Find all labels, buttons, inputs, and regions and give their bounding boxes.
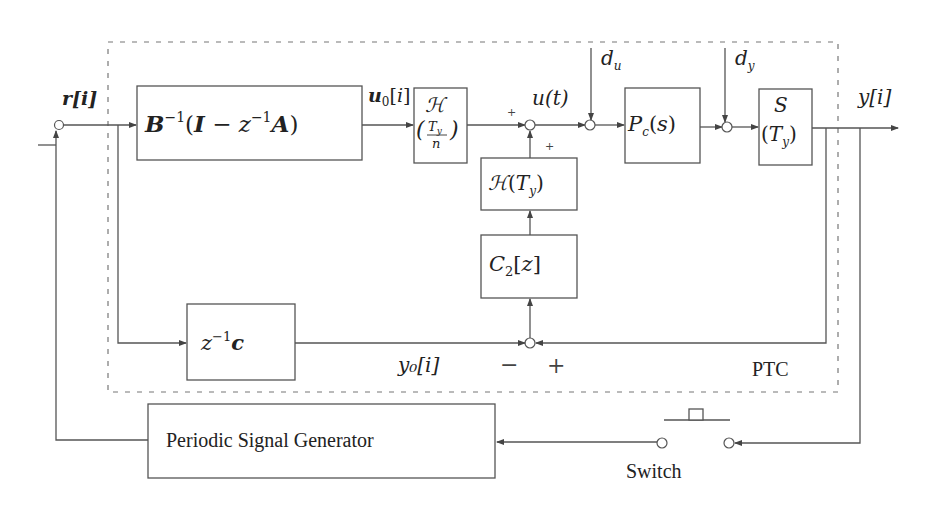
output-label: y[i] [857, 85, 891, 109]
fast-hold-paren-right: ) [449, 117, 459, 142]
u0-label: u0[i] [368, 84, 410, 109]
bottom-plus-sign: + [547, 353, 565, 378]
sum3-junction [722, 122, 732, 132]
reference-label: r[i] [62, 87, 97, 109]
ptc-label: PTC [752, 358, 789, 380]
y0-label: y₀[i] [397, 353, 440, 377]
fast-hold-paren-left: ( [416, 117, 425, 142]
fast-hold-top: ℋ [425, 93, 448, 117]
slow-hold-label: ℋ(Ty) [488, 171, 544, 198]
switch-terminal-right[interactable] [724, 438, 734, 448]
controller-label: C2[z] [489, 252, 541, 279]
u-t-label: u(t) [532, 86, 569, 110]
sum1-junction [525, 120, 535, 130]
switch-plunger[interactable] [689, 409, 703, 420]
switch-label: Switch [626, 460, 682, 482]
wire-generator-to-input [56, 131, 148, 440]
fast-hold-den: n [432, 136, 440, 151]
sampler-label: (Ty) [761, 122, 797, 149]
dy-label: dy [735, 46, 755, 73]
error-sum-junction [525, 338, 535, 348]
du-label: du [601, 46, 622, 73]
bottom-minus-sign: − [500, 352, 518, 377]
sum1-plus-left: + [507, 106, 516, 119]
wire-feedback-outer [735, 128, 860, 443]
sum1-plus-bottom: + [545, 140, 554, 153]
sum2-junction [585, 120, 595, 130]
ptc-block-diagram: PTC r[i] B−1(I − z−1A) u0[i] ℋ ( Ty n ) … [0, 0, 939, 505]
plant-label: Pc(s) [627, 112, 676, 139]
generator-label: Periodic Signal Generator [166, 429, 374, 452]
sampler-top: S [774, 93, 788, 117]
input-sum-junction [55, 121, 64, 130]
switch-terminal-left[interactable] [657, 438, 667, 448]
